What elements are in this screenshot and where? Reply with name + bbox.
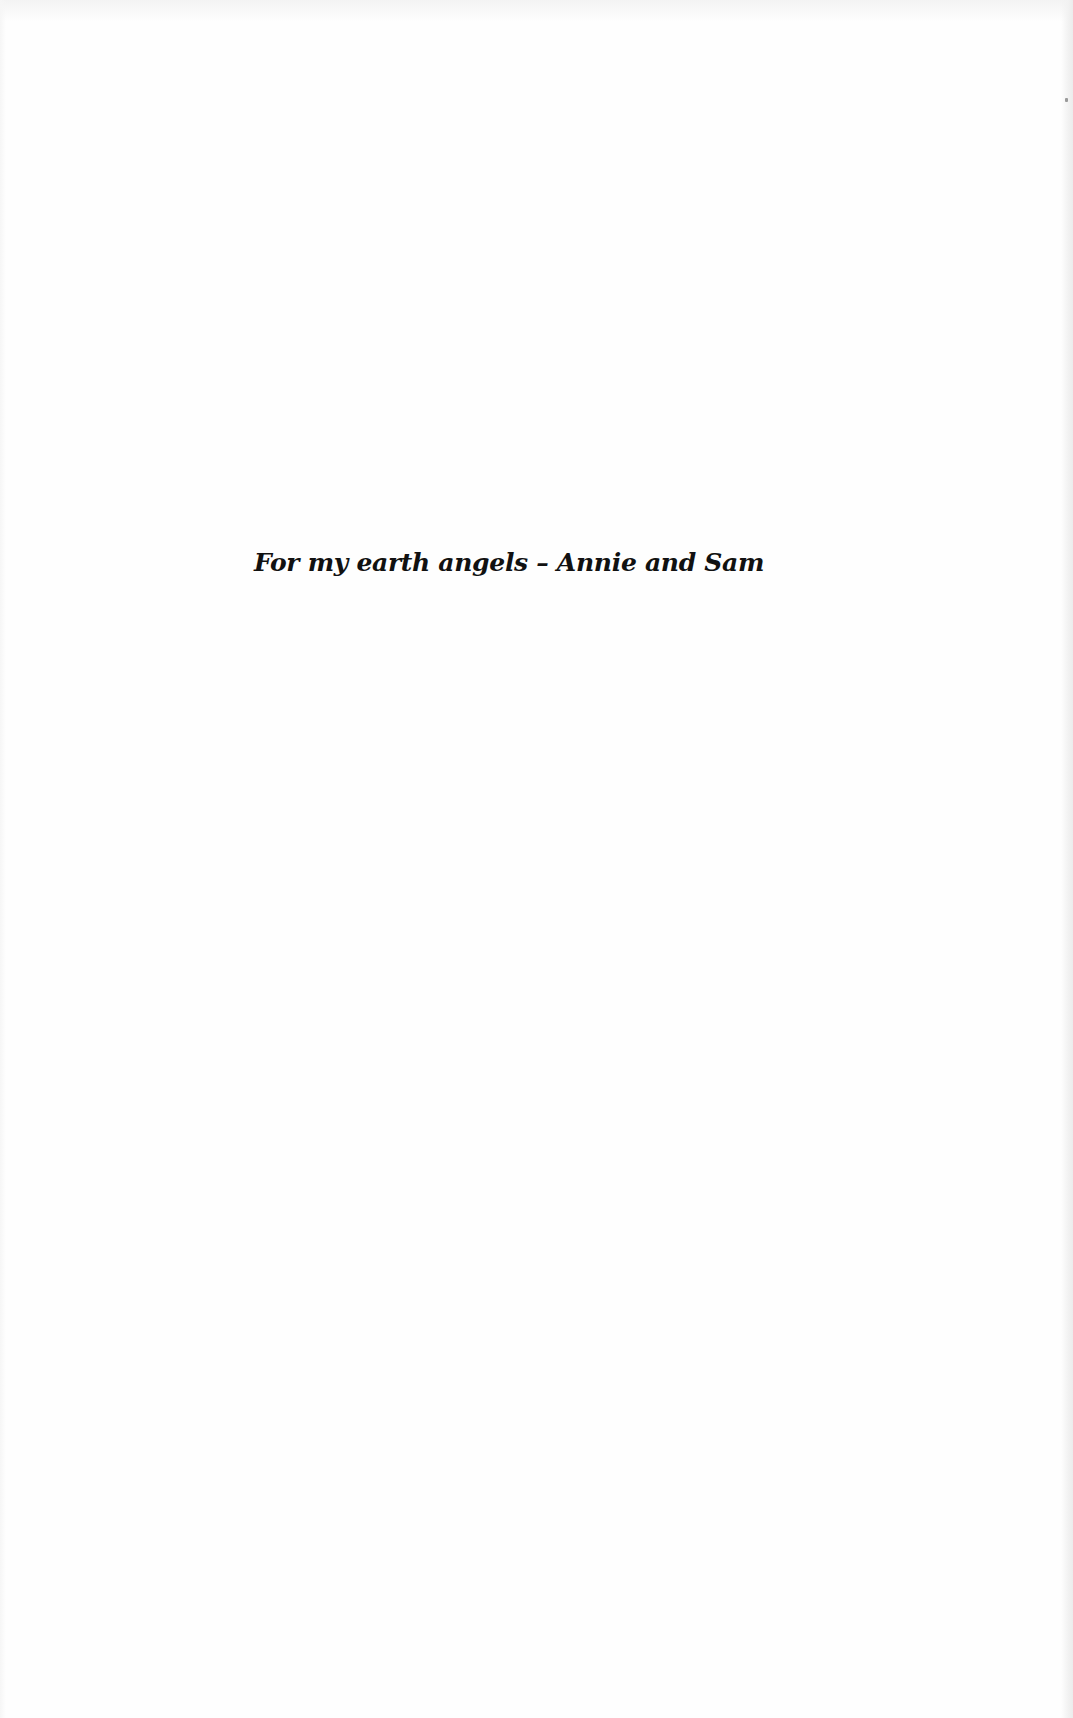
- scan-speck: [1065, 98, 1068, 102]
- book-page: For my earth angels – Annie and Sam: [0, 0, 1073, 1718]
- scan-top-edge: [0, 0, 1073, 22]
- scan-left-edge: [0, 0, 6, 1718]
- scan-right-edge: [1061, 0, 1073, 1718]
- dedication-text: For my earth angels – Annie and Sam: [0, 545, 1018, 581]
